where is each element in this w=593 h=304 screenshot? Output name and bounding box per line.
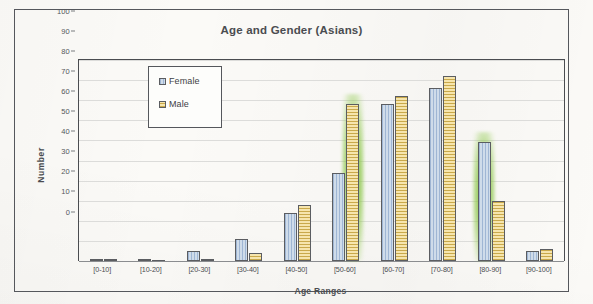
bar-male xyxy=(201,259,214,261)
y-axis-tick-mark xyxy=(71,90,75,91)
x-axis-tick-label: [60-70] xyxy=(369,265,418,274)
bar-female xyxy=(478,142,491,261)
legend-label: Male xyxy=(169,99,189,109)
chart-outer-frame: Age and Gender (Asians) Number 100908070… xyxy=(14,9,569,292)
x-axis-tick-label: [30-40] xyxy=(224,265,273,274)
x-axis-tick-label: [10-20] xyxy=(127,265,176,274)
bar-group xyxy=(322,60,371,261)
legend-item-male: Male xyxy=(159,99,221,109)
y-axis-tick-label: 40 xyxy=(61,127,70,136)
y-axis-tick-mark xyxy=(71,191,75,192)
x-axis-tick-label: [70-80] xyxy=(418,265,467,274)
chart-title: Age and Gender (Asians) xyxy=(15,24,568,36)
legend-item-female: Female xyxy=(159,76,221,86)
y-axis-tick-label: 30 xyxy=(61,147,70,156)
bar-female xyxy=(526,251,539,261)
y-axis-tick-mark xyxy=(71,151,75,152)
bar-group xyxy=(419,60,468,261)
bar-female xyxy=(332,173,345,261)
bar-male xyxy=(298,205,311,261)
gridline xyxy=(79,261,564,262)
bar-group xyxy=(79,60,128,261)
y-axis-tick-mark xyxy=(71,70,75,71)
bar-female xyxy=(187,251,200,261)
bar-group xyxy=(516,60,565,261)
y-axis-tick-label: 0 xyxy=(66,207,70,216)
bar-group xyxy=(225,60,274,261)
y-axis-tick-mark xyxy=(71,30,75,31)
legend-swatch-icon xyxy=(159,78,166,85)
x-axis-tick-label: [80-90] xyxy=(466,265,515,274)
chart-legend: FemaleMale xyxy=(148,66,222,128)
bar-male xyxy=(443,76,456,261)
bar-group xyxy=(273,60,322,261)
bar-group xyxy=(467,60,516,261)
bar-male xyxy=(395,96,408,261)
bar-male xyxy=(152,260,165,261)
bar-female xyxy=(381,104,394,261)
y-axis-tick-label: 100 xyxy=(57,6,70,15)
y-axis-tick-mark xyxy=(71,171,75,172)
y-axis-tick-label: 60 xyxy=(61,86,70,95)
y-axis-tick-label: 70 xyxy=(61,66,70,75)
x-axis-tick-label: [50-60] xyxy=(321,265,370,274)
x-axis-tick-label: [90-100] xyxy=(515,265,564,274)
bar-female xyxy=(284,213,297,261)
bar-group xyxy=(370,60,419,261)
x-axis-title: Age Ranges xyxy=(78,286,563,296)
bar-male xyxy=(104,259,117,261)
y-axis-tick-label: 90 xyxy=(61,26,70,35)
y-axis-tick-label: 10 xyxy=(61,187,70,196)
bar-female xyxy=(429,88,442,261)
bar-male xyxy=(492,201,505,261)
y-axis: 1009080706050403020100 xyxy=(15,10,75,211)
y-axis-tick-mark xyxy=(71,111,75,112)
bar-male xyxy=(249,253,262,261)
y-axis-tick-mark xyxy=(71,10,75,11)
y-axis-tick-label: 20 xyxy=(61,167,70,176)
bar-male xyxy=(540,249,553,261)
bar-female xyxy=(90,259,103,261)
y-axis-tick-mark xyxy=(71,131,75,132)
bar-female xyxy=(235,239,248,261)
y-axis-tick-label: 50 xyxy=(61,107,70,116)
y-axis-tick-mark xyxy=(71,50,75,51)
legend-label: Female xyxy=(169,76,200,86)
y-axis-tick-mark xyxy=(71,211,75,212)
y-axis-tick-label: 80 xyxy=(61,46,70,55)
bar-male xyxy=(346,104,359,261)
bar-female xyxy=(138,259,151,261)
x-axis-tick-label: [0-10] xyxy=(78,265,127,274)
x-axis: [0-10][10-20][20-30][30-40][40-50][50-60… xyxy=(78,265,563,274)
x-axis-tick-label: [40-50] xyxy=(272,265,321,274)
x-axis-tick-label: [20-30] xyxy=(175,265,224,274)
legend-swatch-icon xyxy=(159,101,166,108)
